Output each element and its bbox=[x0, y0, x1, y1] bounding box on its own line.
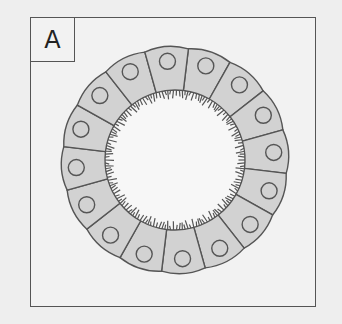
cell-nucleus bbox=[68, 160, 84, 176]
cell-nucleus bbox=[136, 246, 152, 262]
cell-nucleus bbox=[212, 240, 228, 256]
cell-nucleus bbox=[73, 121, 89, 137]
lumen bbox=[106, 91, 244, 229]
microvillus bbox=[179, 90, 180, 96]
cell-nucleus bbox=[266, 144, 282, 160]
cell-nucleus bbox=[92, 88, 108, 104]
cell-nucleus bbox=[103, 227, 119, 243]
acinus-diagram bbox=[0, 0, 342, 324]
cell-nucleus bbox=[175, 251, 191, 267]
cell-nucleus bbox=[159, 53, 175, 69]
cell-nucleus bbox=[261, 183, 277, 199]
microvillus bbox=[240, 166, 245, 167]
microvillus bbox=[156, 93, 157, 99]
microvillus bbox=[105, 154, 113, 155]
cell-nucleus bbox=[231, 77, 247, 93]
cell-nucleus bbox=[242, 216, 258, 232]
cell-nucleus bbox=[255, 107, 271, 123]
microvillus bbox=[237, 163, 245, 164]
microvillus bbox=[176, 225, 177, 230]
cell-nucleus bbox=[198, 58, 214, 74]
cell-nucleus bbox=[122, 64, 138, 80]
microvillus bbox=[238, 143, 243, 144]
microvillus bbox=[105, 157, 109, 158]
microvillus bbox=[179, 223, 180, 230]
cell-nucleus bbox=[79, 197, 95, 213]
